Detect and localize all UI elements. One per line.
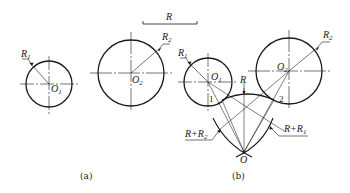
panel-b: R1 O1 R2 O2 R 1 2 R+R2 [177, 29, 333, 181]
panel-a-caption: (a) [80, 171, 92, 181]
diagram-canvas: R R1 O1 R2 O2 (a) [0, 0, 350, 193]
panel-a-o2-label: O2 [132, 74, 143, 87]
label-r-plus-r1: R+R1 [283, 123, 306, 136]
tangent-point-2: 2 [279, 94, 284, 104]
panel-b-circle-o1 [178, 53, 238, 112]
panel-a-o1-label: O1 [51, 83, 62, 96]
panel-b-o1-label: O1 [211, 71, 222, 84]
label-r-plus-r2: R+R2 [184, 128, 208, 141]
panel-b-r2-label: R2 [322, 29, 333, 42]
arc-center-point [243, 151, 246, 154]
panel-a-r2-label: R2 [161, 31, 172, 44]
panel-a-circle-o2 [90, 32, 172, 112]
panel-b-circle-o2 [248, 30, 330, 110]
arc-radius-label: R [239, 74, 246, 85]
tangent-point-1: 1 [209, 94, 214, 104]
panel-b-caption: (b) [232, 171, 245, 181]
panel-b-o2-label: O2 [277, 61, 288, 74]
panel-a-circle-o1 [20, 56, 78, 114]
scale-bar-label: R [165, 11, 172, 22]
panel-a: R1 O1 R2 O2 (a) [20, 31, 172, 181]
arc-center-label: O [240, 154, 247, 165]
